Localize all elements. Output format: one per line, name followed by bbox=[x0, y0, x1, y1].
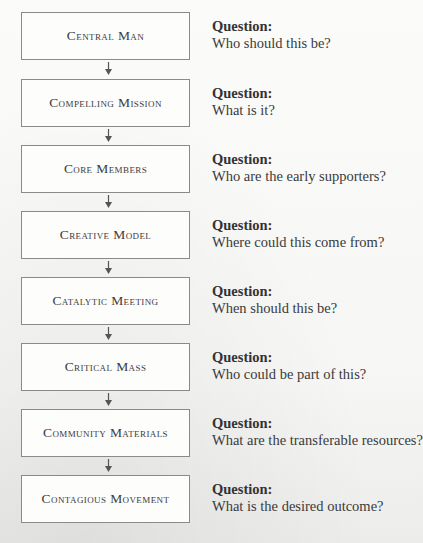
step-label: Catalytic Meeting bbox=[52, 293, 158, 309]
question-text: What is it? bbox=[212, 102, 275, 119]
flow-step-contagious-movement: Contagious Movement Question:What is the… bbox=[0, 475, 423, 523]
step-box: Compelling Mission bbox=[21, 79, 190, 127]
step-label: Community Materials bbox=[43, 425, 168, 441]
question-heading: Question: bbox=[212, 283, 337, 300]
question-text: Where could this come from? bbox=[212, 234, 384, 251]
step-box: Contagious Movement bbox=[21, 475, 190, 523]
step-label: Creative Model bbox=[60, 227, 151, 243]
step-question: Question:Who are the early supporters? bbox=[212, 151, 386, 185]
step-question: Question:Who should this be? bbox=[212, 18, 331, 52]
flow-step-compelling-mission: Compelling Mission Question:What is it? bbox=[0, 79, 423, 127]
flow-step-community-materials: Community Materials Question:What are th… bbox=[0, 409, 423, 457]
step-question: Question:What are the transferable resou… bbox=[212, 415, 423, 449]
down-arrow-icon bbox=[104, 129, 113, 143]
question-text: What are the transferable resources? bbox=[212, 432, 423, 449]
question-heading: Question: bbox=[212, 481, 384, 498]
down-arrow-icon bbox=[104, 62, 113, 76]
flow-step-central-man: Central Man Question:Who should this be? bbox=[0, 12, 423, 60]
question-text: What is the desired outcome? bbox=[212, 498, 384, 515]
step-label: Compelling Mission bbox=[49, 95, 162, 111]
flow-step-critical-mass: Critical Mass Question:Who could be part… bbox=[0, 343, 423, 391]
step-question: Question:Where could this come from? bbox=[212, 217, 384, 251]
question-heading: Question: bbox=[212, 217, 384, 234]
step-box: Core Members bbox=[21, 145, 190, 193]
step-label: Central Man bbox=[67, 28, 144, 44]
step-box: Central Man bbox=[21, 12, 190, 60]
step-box: Catalytic Meeting bbox=[21, 277, 190, 325]
down-arrow-icon bbox=[104, 459, 113, 473]
step-question: Question:Who could be part of this? bbox=[212, 349, 366, 383]
question-heading: Question: bbox=[212, 151, 386, 168]
step-box: Community Materials bbox=[21, 409, 190, 457]
question-text: Who are the early supporters? bbox=[212, 168, 386, 185]
down-arrow-icon bbox=[104, 327, 113, 341]
flow-step-catalytic-meeting: Catalytic Meeting Question:When should t… bbox=[0, 277, 423, 325]
step-box: Creative Model bbox=[21, 211, 190, 259]
question-text: Who could be part of this? bbox=[212, 366, 366, 383]
flow-step-creative-model: Creative Model Question:Where could this… bbox=[0, 211, 423, 259]
question-heading: Question: bbox=[212, 415, 423, 432]
question-text: Who should this be? bbox=[212, 35, 331, 52]
down-arrow-icon bbox=[104, 195, 113, 209]
step-question: Question:When should this be? bbox=[212, 283, 337, 317]
step-label: Core Members bbox=[64, 161, 147, 177]
question-heading: Question: bbox=[212, 85, 275, 102]
step-question: Question:What is it? bbox=[212, 85, 275, 119]
step-box: Critical Mass bbox=[21, 343, 190, 391]
step-label: Contagious Movement bbox=[42, 491, 170, 507]
question-heading: Question: bbox=[212, 18, 331, 35]
down-arrow-icon bbox=[104, 393, 113, 407]
flow-step-core-members: Core Members Question:Who are the early … bbox=[0, 145, 423, 193]
question-heading: Question: bbox=[212, 349, 366, 366]
down-arrow-icon bbox=[104, 261, 113, 275]
step-label: Critical Mass bbox=[65, 359, 147, 375]
question-text: When should this be? bbox=[212, 300, 337, 317]
step-question: Question:What is the desired outcome? bbox=[212, 481, 384, 515]
